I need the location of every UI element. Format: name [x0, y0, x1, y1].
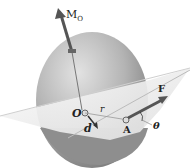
radius-label: r — [100, 105, 104, 114]
point-a-label: A — [123, 125, 131, 135]
moment-arrowhead — [55, 8, 66, 19]
moment-symbol: M — [66, 8, 77, 21]
moment-label: MO — [66, 9, 83, 23]
moment-diagram: MO O r d A F θ — [0, 0, 192, 168]
moment-base — [68, 49, 76, 53]
angle-label: θ — [153, 121, 160, 131]
distance-label: d — [84, 123, 92, 134]
moment-subscript: O — [77, 15, 83, 23]
force-label: F — [158, 84, 165, 94]
origin-label: O — [72, 108, 82, 119]
